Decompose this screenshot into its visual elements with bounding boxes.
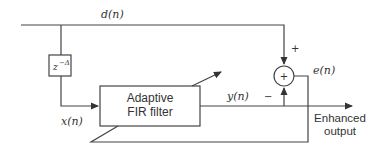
- delay-base: z: [52, 62, 58, 72]
- desired-signal-label: d(n): [101, 8, 124, 21]
- delay-block: z −Δ: [49, 55, 71, 76]
- delay-exponent: −Δ: [59, 59, 70, 67]
- diagram-canvas: d(n) z −Δ x(n) Adaptive FIR filter y(n) …: [0, 0, 382, 154]
- error-signal-label: e(n): [313, 64, 335, 77]
- summing-junction: +: [274, 66, 294, 86]
- filter-label-line2: FIR filter: [127, 105, 172, 119]
- adaptive-filter-block: Adaptive FIR filter: [100, 86, 200, 126]
- output-signal-path: [200, 88, 352, 106]
- adaptation-arrow: [192, 72, 221, 86]
- summer-symbol: +: [280, 71, 288, 82]
- input-signal-label: x(n): [61, 115, 83, 128]
- enhanced-output-label-line1: Enhanced: [314, 112, 366, 124]
- filter-label-line1: Adaptive: [127, 91, 174, 105]
- output-signal-label: y(n): [226, 90, 249, 103]
- summer-minus-sign: −: [264, 91, 272, 102]
- enhanced-output-label-line2: output: [324, 125, 357, 137]
- summer-plus-sign: +: [291, 43, 299, 54]
